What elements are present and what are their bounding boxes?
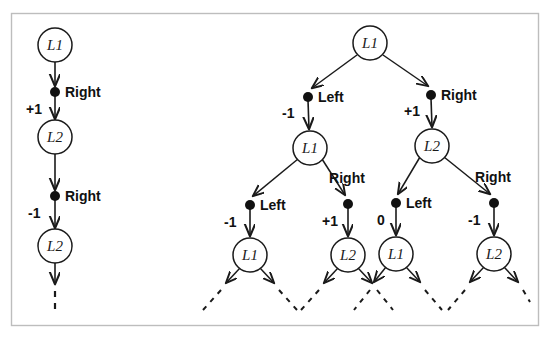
tree-edge-dot1-node (431, 98, 432, 127)
tree-action-label-5: Right (475, 169, 511, 185)
tree-reward-label-2: -1 (224, 214, 237, 230)
tree-reward-label-1: +1 (404, 103, 420, 119)
figure-canvas: L1 L2 L2 Right +1 Right -1 (0, 0, 554, 337)
chain-decision-dot-1 (50, 191, 60, 201)
tree-decision-dot-4 (391, 198, 401, 208)
tree-node-l2-1: L2 (415, 129, 449, 163)
chain-node-0-label: L1 (46, 37, 63, 53)
tree-node-l3-0: L1 (233, 238, 267, 272)
tree-node-l3-1-label: L2 (339, 247, 356, 263)
chain-action-label-0: Right (65, 84, 101, 100)
chain-decision-dot-0 (50, 87, 60, 97)
tree-action-label-0: Left (318, 89, 344, 105)
tree-decision-dot-5 (489, 198, 499, 208)
tree-edge-dot0-node (308, 100, 309, 129)
chain-reward-label-1: -1 (28, 205, 41, 221)
tree-node-root: L1 (353, 26, 387, 60)
tree-action-label-3: Right (329, 170, 365, 186)
tree-reward-label-3: +1 (322, 213, 338, 229)
chain-action-label-1: Right (65, 188, 101, 204)
tree-node-l3-0-label: L1 (241, 247, 258, 263)
chain-node-2-label: L2 (46, 238, 63, 254)
tree-node-l3-1: L2 (331, 238, 365, 272)
chain-node-1-label: L2 (46, 129, 63, 145)
tree-node-root-label: L1 (361, 35, 378, 51)
chain-node-1: L2 (38, 120, 72, 154)
tree-action-label-4: Left (406, 195, 432, 211)
tree-node-l3-3: L2 (477, 237, 511, 271)
tree-node-l2-0: L1 (293, 131, 327, 165)
tree-action-label-2: Left (260, 197, 286, 213)
tree-node-l3-2: L1 (379, 237, 413, 271)
chain-node-0: L1 (38, 28, 72, 62)
chain-node-2: L2 (38, 229, 72, 263)
tree-reward-label-4: 0 (377, 212, 385, 228)
tree-node-l2-0-label: L1 (301, 140, 318, 156)
tree-reward-label-5: -1 (468, 212, 481, 228)
tree-decision-dot-3 (343, 199, 353, 209)
diagram-svg: L1 L2 L2 Right +1 Right -1 (0, 0, 554, 337)
tree-action-label-1: Right (441, 87, 477, 103)
tree-node-l3-3-label: L2 (485, 246, 502, 262)
tree-decision-dot-1 (426, 90, 436, 100)
tree-node-l2-1-label: L2 (423, 138, 440, 154)
tree-node-l3-2-label: L1 (387, 246, 404, 262)
chain-reward-label-0: +1 (26, 101, 42, 117)
tree-decision-dot-0 (303, 92, 313, 102)
tree-reward-label-0: -1 (282, 105, 295, 121)
tree-decision-dot-2 (245, 200, 255, 210)
